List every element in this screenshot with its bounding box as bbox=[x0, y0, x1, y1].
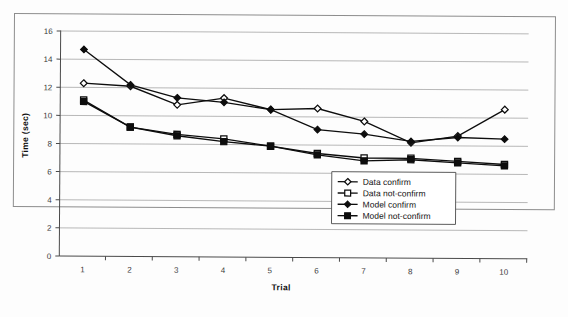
line-chart: 0246810121416 12345678910 Data confirmDa… bbox=[0, 0, 568, 317]
data-point-filled-square bbox=[221, 139, 227, 145]
legend-label: Model confirm bbox=[363, 199, 416, 209]
x-tick-label: 3 bbox=[174, 266, 179, 275]
y-tick-label: 10 bbox=[43, 111, 53, 120]
y-tick-labels: 0246810121416 bbox=[42, 27, 53, 261]
data-point-open-diamond bbox=[314, 105, 321, 112]
x-tick-label: 4 bbox=[221, 266, 226, 275]
figure-canvas: 0246810121416 12345678910 Data confirmDa… bbox=[0, 0, 568, 317]
data-point-filled-square bbox=[345, 213, 351, 219]
y-tick-label: 14 bbox=[44, 55, 54, 64]
x-tick-labels: 12345678910 bbox=[80, 265, 508, 277]
chart-legend[interactable]: Data confirmData not-confirmModel confir… bbox=[331, 172, 455, 225]
x-tick-label: 2 bbox=[127, 265, 132, 274]
data-point-open-square bbox=[345, 190, 351, 196]
y-tick-label: 16 bbox=[44, 27, 54, 36]
data-point-filled-square bbox=[267, 143, 273, 149]
y-tick-label: 2 bbox=[47, 224, 52, 233]
data-point-open-diamond bbox=[501, 106, 508, 113]
data-point-filled-square bbox=[455, 160, 461, 166]
data-point-open-diamond bbox=[174, 101, 181, 108]
data-point-filled-diamond bbox=[314, 126, 321, 133]
chart-plot-area: 0246810121416 12345678910 Data confirmDa… bbox=[0, 0, 568, 317]
x-tick-label: 10 bbox=[499, 268, 509, 277]
data-point-filled-square bbox=[314, 152, 320, 158]
data-point-filled-diamond bbox=[267, 106, 274, 113]
x-tick-label: 8 bbox=[408, 267, 413, 276]
data-point-filled-square bbox=[501, 163, 507, 169]
data-point-filled-square bbox=[127, 124, 133, 130]
data-point-open-diamond bbox=[80, 80, 87, 87]
y-tick-label: 6 bbox=[47, 168, 52, 177]
x-tick-label: 9 bbox=[455, 267, 460, 276]
legend-label: Data confirm bbox=[363, 177, 411, 187]
data-point-filled-square bbox=[361, 158, 367, 164]
data-point-open-diamond bbox=[361, 118, 368, 125]
data-point-filled-diamond bbox=[174, 94, 181, 101]
x-tick-label: 7 bbox=[361, 267, 366, 276]
x-tick-label: 1 bbox=[80, 265, 85, 274]
x-tick-label: 5 bbox=[268, 266, 273, 275]
series-group bbox=[80, 46, 509, 169]
y-tick-label: 12 bbox=[43, 83, 53, 92]
data-point-filled-square bbox=[408, 157, 414, 163]
x-tick-label: 6 bbox=[314, 267, 319, 276]
y-tick-label: 0 bbox=[47, 252, 52, 261]
series-data-not-confirm bbox=[80, 97, 508, 168]
data-point-filled-square bbox=[81, 98, 87, 104]
data-point-filled-square bbox=[174, 133, 180, 139]
legend-label: Model not-confirm bbox=[363, 211, 431, 221]
series-model-confirm bbox=[80, 46, 509, 145]
gridlines-group bbox=[59, 31, 528, 231]
legend-label: Data not-confirm bbox=[363, 188, 426, 198]
x-axis-title: Trial bbox=[272, 282, 291, 292]
data-point-filled-diamond bbox=[501, 136, 508, 143]
data-point-filled-diamond bbox=[361, 131, 368, 138]
y-tick-label: 8 bbox=[47, 139, 52, 148]
y-axis-title: Time (sec) bbox=[20, 113, 30, 158]
y-tick-label: 4 bbox=[47, 196, 52, 205]
